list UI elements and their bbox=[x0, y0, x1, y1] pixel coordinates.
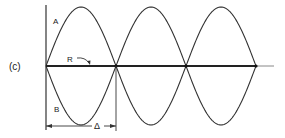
delta-arrowhead-right-icon bbox=[110, 124, 116, 128]
reference-leader-arrow bbox=[77, 58, 89, 63]
node-point bbox=[184, 64, 187, 67]
curve-a bbox=[46, 7, 256, 66]
reference-label: R bbox=[67, 55, 73, 64]
node-point bbox=[254, 64, 257, 67]
delta-arrowhead-left-icon bbox=[46, 124, 52, 128]
reference-arrowhead-icon bbox=[87, 61, 91, 66]
delta-label: Δ bbox=[94, 121, 100, 131]
curve-b-label: B bbox=[54, 105, 59, 114]
curve-a-label: A bbox=[53, 17, 59, 26]
curve-b bbox=[46, 66, 256, 125]
panel-label: (c) bbox=[9, 61, 21, 72]
standing-wave-diagram: (c) A B R Δ bbox=[0, 0, 285, 138]
